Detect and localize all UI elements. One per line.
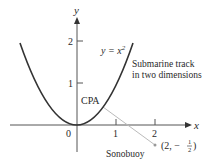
- sonobuoy-frac-den: 2: [188, 146, 191, 153]
- sonobuoy-point: [154, 144, 157, 147]
- x-axis-arrow-icon: [185, 122, 192, 128]
- sonobuoy-frac-num: 1: [188, 138, 191, 145]
- sonobuoy-label: Sonobuoy: [106, 149, 145, 159]
- cpa-label: CPA: [81, 95, 100, 106]
- curve-description-line2: in two dimensions: [132, 70, 202, 80]
- origin-label: 0: [66, 128, 71, 139]
- x-tick-label-2: 2: [152, 128, 157, 139]
- y-tick-label-2: 2: [68, 36, 73, 47]
- cpa-distance-line: [103, 107, 155, 145]
- y-axis-arrow-icon: [74, 17, 80, 24]
- diagram: x y 1 2 1 2 0 y = x2 Submarine track in …: [0, 0, 220, 164]
- y-tick-label-1: 1: [68, 78, 73, 89]
- curve-description-line1: Submarine track: [132, 59, 195, 69]
- curve-equation: y = x2: [100, 44, 126, 56]
- y-axis-label: y: [73, 4, 79, 16]
- sonobuoy-coordinate-close: ): [193, 140, 196, 152]
- x-axis-label: x: [193, 119, 199, 131]
- x-tick-label-1: 1: [113, 128, 118, 139]
- sonobuoy-coordinate: (2, −: [161, 140, 180, 152]
